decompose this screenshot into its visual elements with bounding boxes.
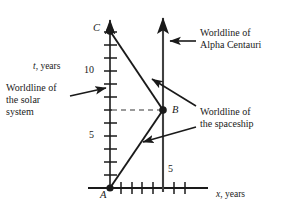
- annotation-alpha-centauri: Worldline of Alpha Centauri: [200, 27, 261, 51]
- t-axis-units: , years: [36, 61, 61, 71]
- point-label-b: B: [172, 104, 178, 115]
- leader-arrow-solar-system: [70, 88, 106, 96]
- t-tick-label-10: 10: [84, 64, 94, 75]
- x-tick-label-5: 5: [168, 163, 173, 174]
- point-label-c: C: [93, 22, 100, 33]
- t-axis-label: t, years: [33, 50, 60, 72]
- spaceship-worldline: [110, 31, 163, 188]
- annotation-solar-system: Worldline of the solar system: [6, 82, 57, 117]
- point-a: [106, 184, 113, 191]
- x-axis-label: x, years: [216, 178, 245, 200]
- t-tick-label-5: 5: [89, 129, 94, 140]
- annotation-spaceship: Worldline of the spaceship: [200, 106, 254, 130]
- spacetime-diagram-figure: t, years x, years 10 5 5 C B A Worldline…: [0, 0, 290, 211]
- x-axis-units: , years: [220, 189, 245, 199]
- point-label-a: A: [100, 189, 106, 200]
- point-c: [106, 27, 114, 35]
- point-b: [159, 106, 167, 114]
- t-axis-solar-system-worldline: [104, 20, 117, 188]
